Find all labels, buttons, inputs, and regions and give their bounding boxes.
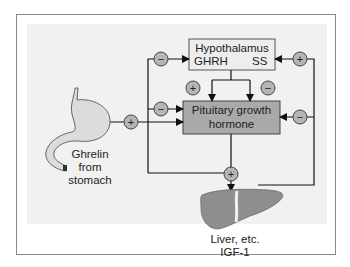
pituitary-line2: hormone [183, 118, 280, 131]
stomach-label-line1: Ghrelin [60, 148, 120, 161]
svg-text:+: + [297, 53, 303, 65]
liver-label-line1: Liver, etc. [200, 233, 270, 246]
svg-text:+: + [190, 82, 196, 94]
svg-text:−: − [158, 103, 164, 115]
svg-text:−: − [158, 53, 164, 65]
svg-text:−: − [297, 111, 303, 123]
ss-label: SS [252, 55, 267, 68]
stomach-label-line3: stomach [60, 174, 120, 187]
diagram-graphics: − − + + − + − + [0, 0, 350, 267]
ghrh-label: GHRH [194, 55, 228, 68]
liver-icon [201, 189, 283, 229]
liver-label-line2: IGF-1 [200, 246, 270, 259]
svg-text:+: + [128, 116, 134, 128]
svg-text:+: + [228, 168, 234, 180]
svg-text:−: − [265, 82, 271, 94]
stomach-label-line2: from [60, 161, 120, 174]
pituitary-line1: Pituitary growth [183, 104, 280, 117]
hypothalamus-title: Hypothalamus [189, 42, 275, 55]
